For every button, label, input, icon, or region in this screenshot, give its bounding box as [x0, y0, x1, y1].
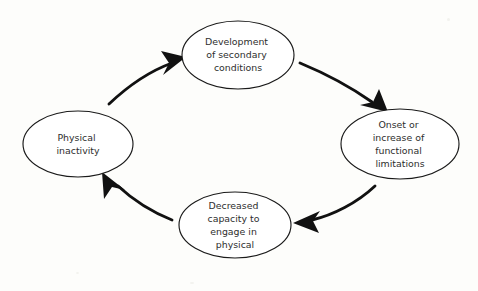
- node-development-of-secondary-conditions-label: Development of secondary conditions: [205, 36, 271, 73]
- node-development-of-secondary-conditions[interactable]: Development of secondary conditions: [182, 21, 294, 89]
- arrow-development-to-onset: [300, 63, 388, 112]
- node-physical-inactivity-shape[interactable]: [23, 111, 133, 177]
- arrow-inactivity-to-development-shaft: [109, 63, 172, 104]
- arrow-decreased-capacity-to-inactivity-shaft: [118, 186, 172, 220]
- arrow-onset-to-decreased-capacity-head: [293, 211, 320, 233]
- node-physical-inactivity[interactable]: Physical inactivity: [23, 111, 133, 177]
- scan-speck: [76, 272, 79, 274]
- node-onset-or-increase-of-functional-limitations[interactable]: Onset or increase of functional limitati…: [341, 109, 459, 179]
- arrow-decreased-capacity-to-inactivity: [102, 172, 172, 220]
- cycle-diagram-canvas: Physical inactivity Development of secon…: [0, 0, 478, 291]
- cycle-diagram: Physical inactivity Development of secon…: [0, 0, 478, 291]
- arrow-decreased-capacity-to-inactivity-head: [102, 172, 125, 199]
- arrow-onset-to-decreased-capacity: [293, 186, 375, 233]
- arrow-development-to-onset-shaft: [300, 63, 372, 102]
- scan-speck: [447, 18, 450, 21]
- scan-speck: [190, 282, 194, 284]
- arrow-inactivity-to-development: [109, 51, 186, 104]
- arrow-development-to-onset-head: [360, 89, 388, 112]
- node-decreased-capacity-to-engage-in-physical[interactable]: Decreased capacity to engage in physical: [179, 192, 291, 258]
- arrow-onset-to-decreased-capacity-shaft: [312, 186, 375, 220]
